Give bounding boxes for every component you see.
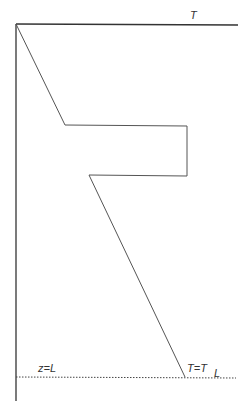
bottom-depth-label: z=L [37,362,56,374]
temperature-axis-label: T [190,9,198,21]
bottom-boundary-dotted-line [16,377,236,378]
temperature-axis [16,24,238,25]
bottom-temperature-label: T=T [187,362,208,374]
bottom-temperature-subscript: L [214,367,220,379]
temperature-profile-diagram: T z=L T=T L [0,0,250,414]
temperature-profile-line [16,24,187,377]
